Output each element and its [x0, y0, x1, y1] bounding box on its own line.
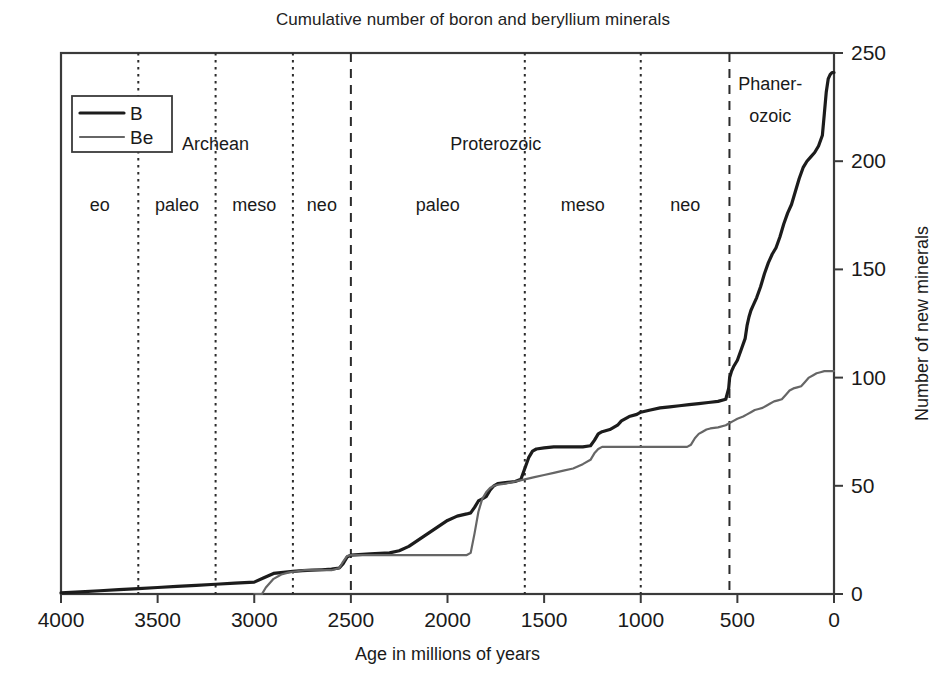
x-tick-label-2000: 2000: [424, 608, 471, 631]
era-label-3: neo: [307, 195, 337, 215]
series-line-Be: [254, 371, 834, 594]
eon-label-2: Phaner-: [738, 74, 802, 94]
plot-border: [61, 53, 834, 594]
x-tick-label-3000: 3000: [231, 608, 278, 631]
y-tick-label-250: 250: [851, 41, 886, 64]
chart-plot-area: 4000350030002500200015001000500005010015…: [0, 0, 946, 694]
x-tick-label-1500: 1500: [521, 608, 568, 631]
x-tick-label-4000: 4000: [38, 608, 85, 631]
eon-label-0: Archean: [182, 134, 249, 154]
legend-label-Be: Be: [130, 127, 153, 148]
legend-label-B: B: [130, 103, 143, 124]
y-axis-title: Number of new minerals: [912, 226, 932, 421]
chart-figure: Cumulative number of boron and beryllium…: [0, 0, 946, 694]
x-tick-label-500: 500: [720, 608, 755, 631]
x-axis-title: Age in millions of years: [355, 644, 540, 664]
axis-titles: Age in millions of yearsNumber of new mi…: [355, 226, 932, 664]
era-label-2: meso: [232, 195, 276, 215]
era-label-4: paleo: [416, 195, 460, 215]
y-tick-label-0: 0: [851, 582, 863, 605]
eon-label-3: ozoic: [749, 106, 791, 126]
era-label-0: eo: [90, 195, 110, 215]
legend-box: [72, 96, 172, 152]
era-labels: ArcheanProterozoicPhaner-ozoiceopaleomes…: [90, 74, 803, 215]
data-series-group: [61, 72, 834, 594]
era-label-5: meso: [561, 195, 605, 215]
x-tick-label-0: 0: [828, 608, 840, 631]
y-tick-label-200: 200: [851, 149, 886, 172]
x-tick-label-2500: 2500: [328, 608, 375, 631]
chart-legend: BBe: [72, 96, 172, 152]
era-label-1: paleo: [155, 195, 199, 215]
eon-label-1: Proterozoic: [450, 134, 541, 154]
y-tick-label-150: 150: [851, 257, 886, 280]
y-tick-label-100: 100: [851, 366, 886, 389]
x-tick-label-1000: 1000: [617, 608, 664, 631]
era-label-6: neo: [670, 195, 700, 215]
y-tick-label-50: 50: [851, 474, 874, 497]
plot-frame: [61, 53, 834, 594]
x-tick-label-3500: 3500: [134, 608, 181, 631]
series-line-B: [61, 72, 834, 592]
